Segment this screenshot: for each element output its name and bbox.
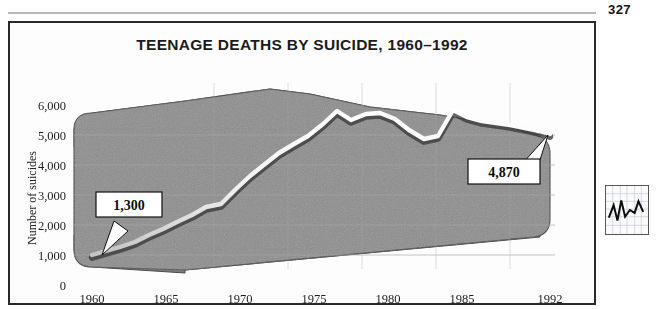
x-tick-1960: 1960 [80, 292, 105, 306]
x-tick-1975: 1975 [302, 292, 327, 306]
x-tick-1992: 1992 [538, 292, 563, 306]
y-tick-4000: 4,000 [38, 159, 66, 173]
y-tick-5000: 5,000 [38, 129, 66, 143]
page-header-rule [8, 12, 596, 14]
x-tick-1980: 1980 [376, 292, 401, 306]
annotation-1300-label: 1,300 [113, 198, 145, 213]
y-tick-0: 0 [60, 279, 66, 293]
line-graph-icon [605, 185, 649, 235]
x-axis-ticks: 1960 1965 1970 1975 1980 1985 1992 [80, 292, 563, 306]
y-tick-1000: 1,000 [38, 249, 66, 263]
page-canvas: 327 TEENAGE DEATHS BY SUICIDE, 1960–1992 [0, 0, 656, 309]
figure-frame: TEENAGE DEATHS BY SUICIDE, 1960–1992 [8, 21, 596, 305]
y-axis-ticks: 6,000 5,000 4,000 3,000 2,000 1,000 0 [38, 99, 66, 293]
y-axis-label: Number of suicides [25, 151, 39, 245]
x-tick-1985: 1985 [450, 292, 475, 306]
y-tick-3000: 3,000 [38, 189, 66, 203]
y-tick-2000: 2,000 [38, 219, 66, 233]
x-tick-1965: 1965 [154, 292, 179, 306]
annotation-4870-label: 4,870 [488, 165, 520, 180]
page-number: 327 [608, 2, 631, 17]
chart-plot-area: 6,000 5,000 4,000 3,000 2,000 1,000 0 19… [10, 23, 598, 307]
y-tick-6000: 6,000 [38, 99, 66, 113]
x-tick-1970: 1970 [228, 292, 253, 306]
